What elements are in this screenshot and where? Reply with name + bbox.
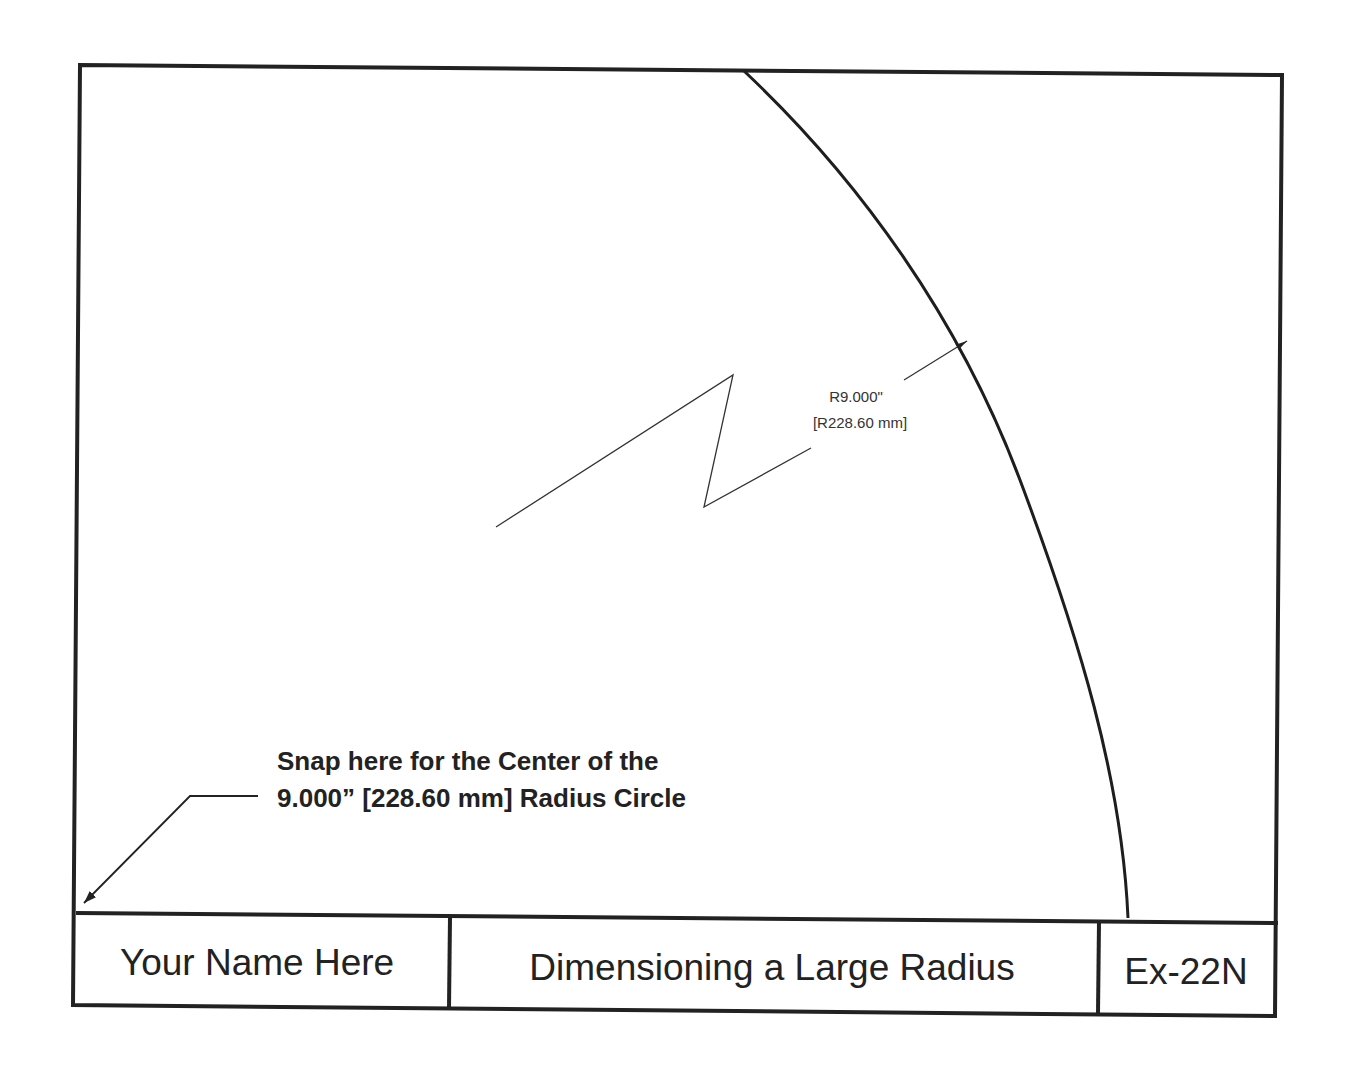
drawing-border [73, 65, 1282, 1016]
technical-drawing: R9.000" [R228.60 mm] Snap here for the C… [0, 0, 1345, 1068]
title-block-name: Your Name Here [120, 942, 394, 983]
title-block-top-line [76, 913, 1278, 923]
radius-dimension-arrow [904, 341, 967, 380]
title-block-divider-1 [449, 917, 450, 1008]
jogged-radius-dimension-line [496, 375, 811, 527]
title-block-divider-2 [1098, 922, 1099, 1013]
title-block-title: Dimensioning a Large Radius [529, 947, 1014, 988]
large-radius-arc [744, 71, 1128, 918]
radius-dimension-mm: [R228.60 mm] [813, 414, 907, 431]
radius-dimension-inches: R9.000" [829, 388, 883, 405]
note-line-2: 9.000” [228.60 mm] Radius Circle [277, 783, 686, 813]
note-leader-arrow [84, 796, 258, 903]
note-line-1: Snap here for the Center of the [277, 746, 658, 776]
title-block-number: Ex-22N [1124, 951, 1247, 992]
